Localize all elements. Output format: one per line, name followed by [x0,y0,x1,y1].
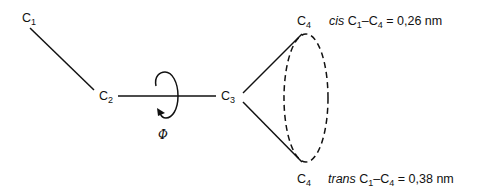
atom-label-c4-trans: C4 [297,172,311,186]
rotation-path-dashed-ellipse [284,34,328,162]
bond-c1-c2 [30,28,94,90]
diagram-canvas [0,0,479,194]
cis-distance-label: cis C1–C4 = 0,26 nm [329,14,442,28]
atom-label-c2: C2 [99,89,113,103]
trans-distance-label: trans C1–C4 = 0,38 nm [328,172,454,186]
rotation-angle-phi: Φ [158,128,168,142]
atom-label-c3: C3 [221,89,235,103]
atom-label-c4-cis: C4 [297,14,311,28]
atom-label-c1: C1 [22,11,36,25]
bond-c3-c4-trans [243,102,302,162]
bond-c3-c4-cis [243,34,302,93]
